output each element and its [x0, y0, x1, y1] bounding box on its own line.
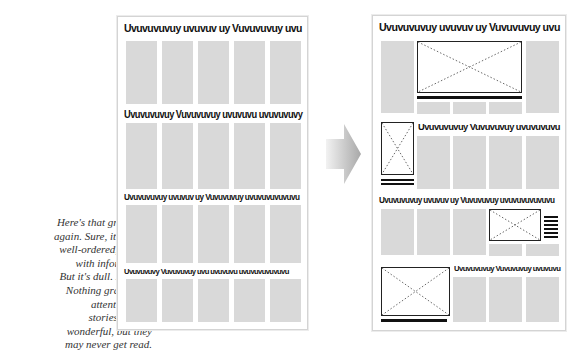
text-column: [162, 205, 193, 263]
text-column: [234, 279, 265, 322]
text-column: [489, 102, 522, 114]
text-column: [526, 244, 559, 256]
photo-placeholder-medium: [489, 209, 541, 241]
text-column: [270, 279, 301, 322]
text-column: [453, 136, 486, 189]
before-headline-3: Uvuvuvuvuy uvuvuv uy Vuvuvuvuy uvuvuvuvu…: [124, 193, 299, 202]
text-column: [453, 209, 486, 255]
caption-bar: [544, 220, 558, 222]
text-column: [198, 123, 229, 189]
text-column: [417, 136, 450, 189]
text-column: [270, 123, 301, 189]
text-column: [198, 205, 229, 263]
after-headline-1: Uvuvuvuvuy uvuvuv uy Vuvuvuvuy uvu: [379, 21, 560, 33]
caption-bar: [544, 216, 558, 218]
before-headline-1: Uvuvuvuvuy uvuvuv uy Vuvuvuvuy uvu: [124, 22, 302, 34]
caption-bar: [544, 232, 558, 234]
text-column: [126, 279, 157, 322]
text-column: [489, 244, 522, 256]
arrow-right-icon: [326, 122, 362, 186]
caption-bar: [381, 319, 447, 322]
text-column: [489, 136, 522, 189]
text-column: [126, 205, 157, 263]
text-column: [526, 136, 559, 189]
text-column: [126, 41, 157, 104]
text-column: [453, 102, 486, 114]
text-column: [526, 277, 559, 322]
caption-bar: [544, 228, 558, 230]
caption-line: may never get read.: [2, 338, 152, 352]
after-headline-2: Uvuvuvuvuy Vuvuvuvuy uvuvuvuvu: [418, 121, 560, 132]
after-page: Uvuvuvuvuy uvuvuv uy Vuvuvuvuy uvu Uvuvu…: [372, 15, 566, 331]
before-headline-2: Uvuvuvuvuy Vuvuvuvuy uvuvuvu uvuvuvuvy: [124, 109, 302, 120]
text-column: [162, 279, 193, 322]
before-headline-4: Uvuvuvuvy Vuvuvuvuy uvu uvuvuvu uvuvuvuv…: [124, 267, 289, 276]
text-column: [381, 209, 414, 255]
text-column: [489, 277, 522, 322]
text-column: [453, 277, 486, 322]
text-column: [162, 41, 193, 104]
text-column: [526, 41, 559, 113]
text-column: [270, 205, 301, 263]
text-column: [417, 209, 450, 255]
caption-bar: [381, 183, 414, 185]
text-column: [234, 41, 265, 104]
after-headline-4: Uvuvuvuvuy Vuvuvuvuy uvuvuvu: [454, 264, 560, 273]
text-column: [126, 123, 157, 189]
text-column: [162, 123, 193, 189]
caption-bar: [544, 236, 558, 238]
caption-bar: [544, 224, 558, 226]
after-headline-3: Uvuvuvuvuy uvuvuv uy Vuvuvuvuy uvuvuvuvu…: [379, 196, 554, 205]
text-column: [234, 205, 265, 263]
text-column: [381, 41, 414, 113]
photo-placeholder-portrait: [381, 122, 414, 175]
photo-placeholder-large: [417, 41, 522, 93]
text-column: [198, 41, 229, 104]
text-column: [234, 123, 265, 189]
before-page: Uvuvuvuvuy uvuvuv uy Vuvuvuvuy uvu Uvuvu…: [117, 16, 308, 330]
text-column: [417, 102, 450, 114]
photo-placeholder-wide: [381, 267, 450, 316]
caption-bar: [417, 96, 522, 99]
text-column: [270, 41, 301, 104]
text-column: [198, 279, 229, 322]
caption-bar: [381, 179, 414, 181]
